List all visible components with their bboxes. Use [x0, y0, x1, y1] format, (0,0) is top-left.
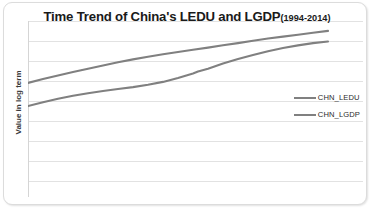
legend-label: CHN_LGDP [318, 110, 360, 119]
series-line-chn-ledu [28, 31, 328, 83]
legend-swatch-icon [294, 97, 316, 99]
chart-card: Time Trend of China's LEDU and LGDP(1994… [3, 2, 367, 205]
y-axis-title-wrap: Value in log term [11, 55, 25, 155]
legend-item-chn-ledu[interactable]: CHN_LEDU [294, 91, 360, 104]
legend-item-chn-lgdp[interactable]: CHN_LGDP [294, 108, 360, 121]
legend-swatch-icon [294, 114, 316, 116]
y-axis-title: Value in log term [14, 53, 23, 153]
legend-label: CHN_LEDU [318, 93, 360, 102]
chart-legend: CHN_LEDU CHN_LGDP [294, 91, 360, 125]
chart-card-inner: Time Trend of China's LEDU and LGDP(1994… [4, 3, 366, 204]
